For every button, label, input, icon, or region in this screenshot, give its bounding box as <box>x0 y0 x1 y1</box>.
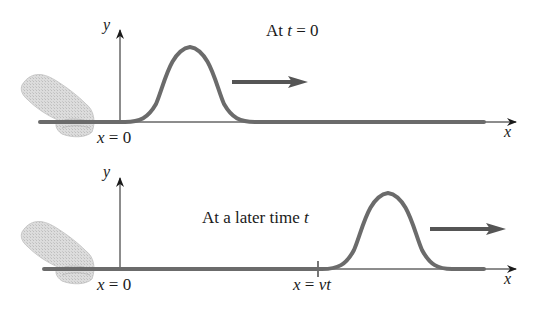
panel-caption: At t = 0 <box>266 21 319 40</box>
right-arrow-icon <box>430 223 506 235</box>
right-arrow-icon <box>232 76 308 88</box>
x-axis-label: x <box>503 270 511 287</box>
y-axis-label: y <box>101 163 111 181</box>
wave-pulse-diagram: y x x = 0 At t = 0 y x x = 0 x = vt At a… <box>0 0 545 314</box>
panel-initial: y x x = 0 At t = 0 <box>21 16 516 147</box>
origin-label: x = 0 <box>96 128 131 147</box>
rope-with-pulse <box>44 193 484 269</box>
hand-icon <box>21 75 94 137</box>
rope-with-pulse <box>40 47 484 122</box>
y-axis-label: y <box>101 16 111 34</box>
panel-caption: At a later time t <box>202 208 310 227</box>
panel-later: y x x = 0 x = vt At a later time t <box>21 163 516 294</box>
x-axis-label: x <box>503 123 511 140</box>
position-label: x = vt <box>292 275 332 294</box>
hand-icon <box>21 222 94 284</box>
origin-label: x = 0 <box>96 275 131 294</box>
